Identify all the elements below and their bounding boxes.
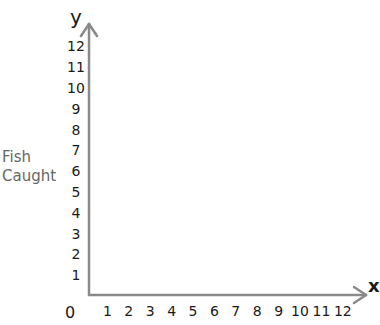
y-tick-label: 9	[72, 101, 81, 117]
x-axis-letter: x	[368, 275, 380, 296]
y-tick-label: 10	[67, 80, 85, 96]
x-tick-label: 5	[189, 303, 198, 319]
y-tick-label: 12	[67, 38, 85, 54]
y-axis-letter: y	[70, 5, 82, 29]
y-tick-label: 4	[72, 205, 81, 221]
y-tick-labels: 123456789101112	[67, 38, 85, 283]
x-tick-label: 9	[274, 303, 283, 319]
y-tick-label: 1	[72, 267, 81, 283]
x-tick-label: 1	[103, 303, 112, 319]
x-tick-label: 7	[231, 303, 240, 319]
y-tick-label: 6	[72, 163, 81, 179]
x-tick-label: 6	[210, 303, 219, 319]
y-tick-label: 7	[72, 142, 81, 158]
x-tick-label: 8	[253, 303, 262, 319]
y-tick-label: 2	[72, 246, 81, 262]
coordinate-plane: 123456789101112 123456789101112 y x 0	[0, 0, 380, 325]
x-tick-label: 11	[312, 303, 330, 319]
x-tick-label: 2	[124, 303, 133, 319]
x-tick-labels: 123456789101112	[103, 303, 352, 319]
origin-label: 0	[65, 303, 75, 322]
axes	[81, 24, 366, 303]
x-tick-label: 3	[146, 303, 155, 319]
x-tick-label: 12	[334, 303, 352, 319]
x-tick-label: 10	[291, 303, 309, 319]
y-tick-label: 11	[67, 59, 85, 75]
y-tick-label: 8	[72, 122, 81, 138]
y-tick-label: 3	[72, 226, 81, 242]
y-tick-label: 5	[72, 184, 81, 200]
x-tick-label: 4	[167, 303, 176, 319]
